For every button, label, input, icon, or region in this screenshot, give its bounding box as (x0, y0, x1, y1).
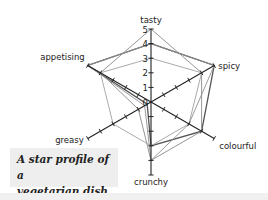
chart-caption: A star profile of a vegetarian dish (10, 148, 118, 187)
caption-line-1: A star profile of a (17, 151, 118, 183)
tick-label: 0 (143, 98, 148, 108)
bottom-strip (0, 193, 268, 200)
axis-line (151, 102, 214, 139)
axis-label-appetising: appetising (40, 52, 85, 62)
tick-label: 3 (143, 54, 148, 64)
axis-line (88, 66, 151, 103)
axis-label-colourful: colourful (219, 141, 256, 151)
tick-label: 4 (143, 39, 148, 49)
axis-label-crunchy: crunchy (134, 177, 168, 187)
tick-label: 1 (143, 83, 148, 93)
axis-line (151, 66, 214, 103)
axis-label-spicy: spicy (218, 61, 240, 71)
axis-label-tasty: tasty (140, 15, 161, 25)
axis-label-greasy: greasy (55, 135, 84, 145)
tick-label: 5 (143, 25, 148, 35)
tick-label: 2 (143, 68, 148, 78)
